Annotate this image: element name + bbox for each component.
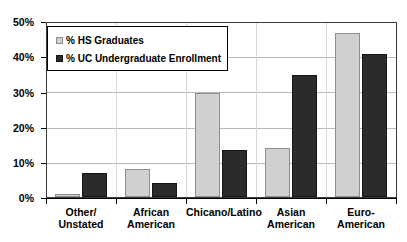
bar-uc-chicano-latino (222, 150, 247, 197)
legend-label-uc-enrollment: % UC Undergraduate Enrollment (66, 54, 221, 64)
bar-uc-other-unstated (82, 173, 107, 197)
x-tick-label-line1: Chicano/Latino (186, 206, 262, 218)
x-tick-label-line2: Unstated (46, 218, 116, 230)
x-tick-label-line2: American (256, 218, 326, 230)
x-tick-label-line1: Asian (277, 206, 306, 218)
x-tick-mark-4 (326, 199, 327, 204)
x-tick-mark-0 (46, 199, 47, 204)
legend-label-hs-graduates: % HS Graduates (66, 36, 144, 46)
y-tick-label-30: 30% (13, 88, 34, 99)
x-axis: Other/ Unstated African American Chicano… (46, 206, 397, 240)
bar-uc-asian-american (292, 75, 317, 197)
y-axis: 50% 40% 30% 20% 10% 0% (0, 0, 40, 242)
legend-entry-hs-graduates: % HS Graduates (56, 32, 227, 49)
bar-group-asian-american (257, 23, 327, 197)
bar-group-euro-american (327, 23, 397, 197)
x-tick-label-other-unstated: Other/ Unstated (46, 206, 116, 230)
bar-hs-euro-american (335, 33, 360, 197)
y-tick-label-20: 20% (13, 123, 34, 134)
light-gray-square-icon (56, 37, 63, 44)
x-tick-mark-1 (116, 199, 117, 204)
x-axis-line (46, 198, 397, 199)
y-tick-label-10: 10% (13, 158, 34, 169)
x-tick-label-asian-american: Asian American (256, 206, 326, 230)
x-tick-label-euro-american: Euro-American (326, 206, 396, 230)
x-tick-label-line1: African (133, 206, 169, 218)
bar-hs-chicano-latino (195, 93, 220, 197)
x-tick-label-line1: Other/ (66, 206, 97, 218)
y-tick-label-40: 40% (13, 52, 34, 63)
dark-square-icon (56, 55, 63, 62)
bar-hs-asian-american (265, 148, 290, 197)
x-tick-mark-3 (256, 199, 257, 204)
y-tick-label-0: 0% (19, 193, 34, 204)
x-tick-mark-2 (186, 199, 187, 204)
x-tick-label-chicano-latino: Chicano/Latino (186, 206, 256, 218)
x-tick-mark-5 (396, 199, 397, 204)
bar-chart-figure: 50% 40% 30% 20% 10% 0% (0, 0, 407, 242)
bar-hs-african-american (125, 169, 150, 197)
bar-uc-euro-american (362, 54, 387, 197)
x-tick-label-line1: Euro-American (337, 206, 385, 230)
bar-uc-african-american (152, 183, 177, 197)
legend: % HS Graduates % UC Undergraduate Enroll… (47, 26, 228, 71)
x-tick-label-line2: American (116, 218, 186, 230)
x-tick-label-african-american: African American (116, 206, 186, 230)
bar-hs-other-unstated (55, 194, 80, 197)
y-tick-label-50: 50% (13, 17, 34, 28)
legend-entry-uc-enrollment: % UC Undergraduate Enrollment (56, 50, 227, 67)
